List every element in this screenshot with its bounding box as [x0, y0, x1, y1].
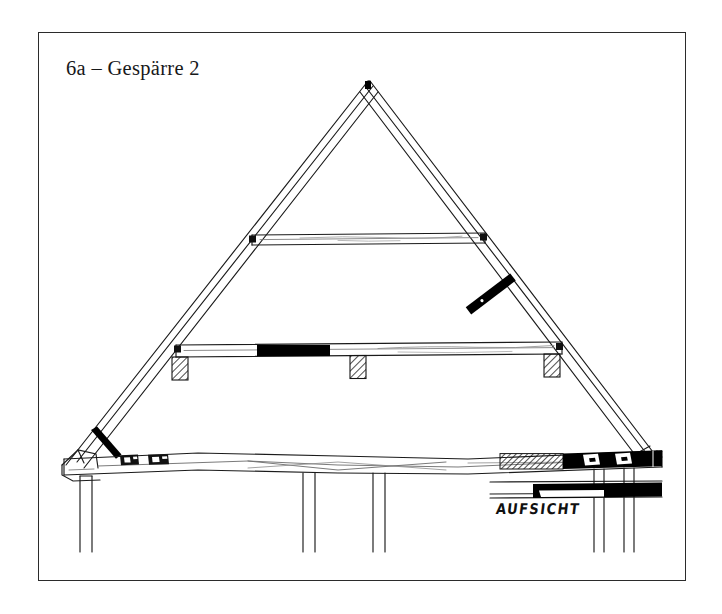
peg-hole-right-2 — [615, 453, 632, 465]
black-tie-beam-end-right — [563, 450, 662, 469]
screenshot-root: 6a – Gespärre 2 — [0, 0, 722, 614]
apex-joint-peg — [365, 81, 371, 89]
hatched-mortise-right — [544, 354, 560, 377]
post-1 — [80, 476, 92, 552]
lower-collar-beam — [176, 342, 562, 357]
peg-upper-collar-left — [249, 236, 256, 243]
black-segment-lower-collar — [257, 345, 330, 356]
joint-mark-left-tie-1 — [120, 455, 139, 466]
post-3 — [373, 473, 385, 552]
truss-drawing-canvas — [38, 32, 686, 581]
peg-hole-right-1 — [583, 454, 600, 466]
plan-detail-aufsicht — [490, 481, 662, 498]
hatched-mortise-left — [172, 357, 188, 380]
truss-geometry — [62, 81, 662, 552]
aufsicht-annotation: AUFSICHT — [495, 501, 581, 516]
upper-collar-beam — [252, 233, 485, 245]
peg-upper-collar-right — [480, 234, 487, 241]
hatched-mortise-center — [350, 356, 366, 379]
black-segment-right-rafter — [466, 273, 516, 314]
truss-drawing — [38, 32, 686, 581]
joint-mark-left-tie-2 — [148, 454, 169, 465]
post-2 — [303, 473, 315, 552]
hatched-lap-joint-right-tie — [500, 454, 563, 469]
left-rafter — [66, 81, 378, 468]
peg-lower-collar-right — [556, 343, 563, 350]
right-rafter — [360, 81, 656, 460]
peg-lower-collar-left — [174, 346, 181, 353]
